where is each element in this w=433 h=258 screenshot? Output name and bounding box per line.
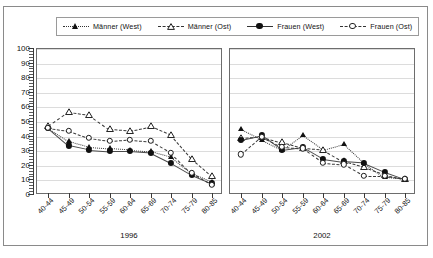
data-point-circle-filled	[65, 142, 71, 148]
data-point-triangle-open	[85, 111, 93, 118]
legend-item-2[interactable]: Männer (Ost)	[158, 22, 232, 32]
data-point-circle-open	[106, 138, 112, 144]
y-tick-minor	[29, 112, 33, 113]
gridline	[230, 49, 414, 50]
chart-screenshot: Männer (West)Männer (Ost)Frauen (West)Fr…	[0, 0, 433, 258]
data-point-triangle-open	[65, 108, 73, 115]
y-tick-label-80: 80	[6, 73, 30, 82]
plot-area-1996	[37, 49, 221, 193]
y-tick-minor	[29, 191, 33, 192]
y-tick-label-20: 20	[6, 160, 30, 169]
y-tick-label-90: 90	[6, 58, 30, 67]
data-point-triangle-open	[126, 127, 134, 134]
y-tick-minor	[29, 147, 33, 148]
y-tick-minor	[29, 188, 33, 189]
gridline	[230, 78, 414, 79]
data-point-triangle-filled	[238, 126, 244, 131]
y-tick-minor	[29, 162, 33, 163]
data-point-triangle-open	[167, 131, 175, 138]
y-tick-minor	[29, 89, 33, 90]
y-tick-major	[28, 63, 34, 64]
y-tick-minor	[29, 54, 33, 55]
data-point-triangle-open	[106, 125, 114, 132]
panel-2002	[229, 48, 415, 194]
legend-item-1[interactable]: Männer (West)	[63, 22, 142, 32]
y-tick-minor	[29, 127, 33, 128]
y-tick-minor	[29, 185, 33, 186]
y-tick-minor	[29, 60, 33, 61]
legend-label-3: Frauen (West)	[277, 22, 324, 31]
data-point-circle-open	[361, 173, 367, 179]
gridline	[37, 93, 221, 94]
y-tick-major	[28, 179, 34, 180]
y-tick-minor	[29, 51, 33, 52]
y-tick-major	[28, 48, 34, 49]
plot-area-2002	[230, 49, 414, 193]
data-point-circle-open	[127, 136, 133, 142]
data-point-circle-filled	[106, 148, 112, 154]
y-tick-minor	[29, 176, 33, 177]
y-tick-minor	[29, 159, 33, 160]
data-point-triangle-open	[188, 155, 196, 162]
panel-1996	[36, 48, 222, 194]
y-tick-minor	[29, 101, 33, 102]
y-tick-minor	[29, 141, 33, 142]
data-point-circle-filled	[238, 136, 244, 142]
y-tick-minor	[29, 80, 33, 81]
legend-marker	[349, 23, 355, 29]
y-tick-label-40: 40	[6, 131, 30, 140]
y-tick-minor	[29, 66, 33, 67]
data-point-circle-filled	[127, 148, 133, 154]
circle-open-icon	[349, 23, 355, 29]
y-tick-minor	[29, 118, 33, 119]
y-tick-minor	[29, 109, 33, 110]
data-point-triangle-open	[319, 146, 327, 153]
gridline	[230, 107, 414, 108]
legend-label-4: Frauen (Ost)	[370, 22, 412, 31]
y-tick-minor	[29, 74, 33, 75]
gridline	[37, 78, 221, 79]
y-tick-label-50: 50	[6, 117, 30, 126]
gridline	[37, 64, 221, 65]
y-tick-major	[28, 194, 34, 195]
y-tick-minor	[29, 133, 33, 134]
y-tick-major	[28, 150, 34, 151]
y-tick-label-10: 10	[6, 175, 30, 184]
y-tick-major	[28, 165, 34, 166]
y-tick-minor	[29, 57, 33, 58]
y-tick-minor	[29, 182, 33, 183]
y-tick-label-0: 0	[6, 190, 30, 199]
y-tick-minor	[29, 130, 33, 131]
panel-caption-1996: 1996	[36, 231, 222, 240]
y-tick-minor	[29, 98, 33, 99]
y-tick-minor	[29, 124, 33, 125]
data-point-circle-open	[238, 151, 244, 157]
gridline	[37, 180, 221, 181]
legend-key-2	[158, 22, 184, 32]
legend-marker	[72, 23, 78, 29]
legend-label-2: Männer (Ost)	[188, 22, 232, 31]
data-point-triangle-open	[147, 123, 155, 130]
gridline	[37, 166, 221, 167]
y-tick-minor	[29, 71, 33, 72]
y-tick-minor	[29, 153, 33, 154]
x-axis-labels-1996: 40-4445-4950-5455-5960-6465-6970-7475-79…	[36, 195, 222, 229]
gridline	[37, 122, 221, 123]
gridline	[230, 180, 414, 181]
gridline	[230, 166, 414, 167]
legend-key-4	[340, 22, 366, 32]
legend-item-4[interactable]: Frauen (Ost)	[340, 22, 412, 32]
y-tick-minor	[29, 168, 33, 169]
gridline	[230, 64, 414, 65]
triangle-filled-icon	[72, 23, 78, 29]
data-point-triangle-open	[208, 172, 216, 179]
x-axis-labels-2002: 40-4445-4950-5455-5960-6465-6970-7475-79…	[229, 195, 415, 229]
legend-item-3[interactable]: Frauen (West)	[247, 22, 324, 32]
data-point-triangle-filled	[341, 141, 347, 146]
y-tick-major	[28, 77, 34, 78]
y-tick-minor	[29, 83, 33, 84]
y-tick-minor	[29, 95, 33, 96]
y-tick-label-60: 60	[6, 102, 30, 111]
y-tick-minor	[29, 139, 33, 140]
y-axis-labels: 1009080706050403020100	[6, 44, 30, 194]
